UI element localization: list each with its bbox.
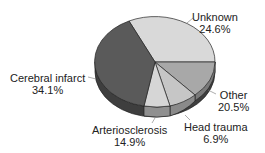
leader-head — [185, 115, 190, 120]
label-arteriosclerosis: Arteriosclerosis14.9% — [92, 124, 167, 148]
label-cerebral-infarct: Cerebral infarct34.1% — [10, 72, 85, 96]
leader-arterio — [152, 118, 155, 123]
label-other: Other20.5% — [218, 89, 249, 113]
label-unknown: Unknown24.6% — [192, 11, 238, 35]
leader-cerebral — [88, 77, 96, 79]
pie-side-arterio — [144, 106, 170, 117]
label-head-trauma: Head trauma6.9% — [184, 121, 248, 145]
